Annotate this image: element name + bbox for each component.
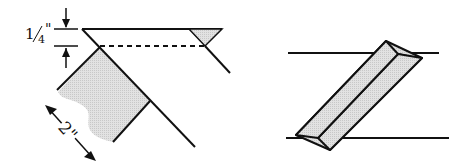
quarter-inch-dimension: 1 4 " bbox=[25, 8, 78, 68]
arrow-down-icon bbox=[62, 19, 70, 28]
arrow-downright-icon bbox=[84, 151, 96, 161]
fraction-whole: 1 bbox=[25, 25, 35, 43]
arrow-up-icon bbox=[62, 48, 70, 57]
right-figure bbox=[286, 41, 449, 150]
inch-mark: " bbox=[45, 21, 51, 37]
trim-triangle bbox=[189, 29, 222, 46]
two-inch-dimension: 2" bbox=[45, 105, 96, 161]
left-figure: 1 4 " 2" bbox=[25, 8, 230, 161]
diagram-canvas: 1 4 " 2" bbox=[0, 0, 456, 165]
arrow-upleft-icon bbox=[45, 105, 57, 115]
fraction-denominator: 4 bbox=[38, 33, 45, 46]
